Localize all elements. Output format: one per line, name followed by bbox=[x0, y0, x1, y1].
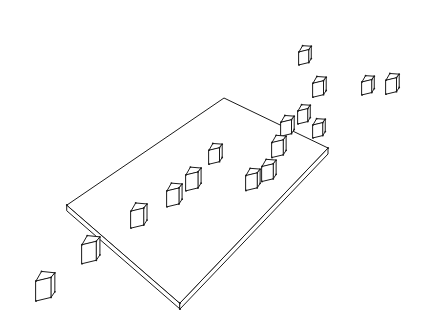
cube-front-face bbox=[246, 173, 257, 191]
cube-front-face bbox=[82, 241, 96, 263]
cube-far-3 bbox=[361, 75, 375, 96]
cube-front-face bbox=[262, 164, 273, 182]
sketch-canvas bbox=[0, 0, 436, 330]
cube-front-face bbox=[362, 80, 372, 95]
cube-front-face bbox=[386, 78, 397, 95]
cube-front-face bbox=[281, 120, 292, 137]
cube-far-1 bbox=[298, 45, 312, 66]
sketch-drawing bbox=[0, 0, 436, 330]
cube-edge-3 bbox=[312, 118, 326, 139]
cube-front-face bbox=[272, 140, 283, 158]
cube-front-face bbox=[167, 188, 179, 207]
cube-front-face bbox=[299, 50, 309, 65]
cube-front-face bbox=[209, 148, 220, 165]
cube-side-face bbox=[51, 273, 55, 298]
cube-front-face bbox=[131, 208, 144, 228]
cube-far-4 bbox=[385, 73, 400, 96]
cube-front-face bbox=[36, 277, 51, 301]
cube-out-1 bbox=[81, 235, 101, 265]
cube-front-face bbox=[313, 81, 324, 98]
cube-edge-1 bbox=[297, 104, 311, 125]
cube-front-face bbox=[313, 123, 323, 138]
cube-front-face bbox=[186, 172, 198, 191]
cube-front-face bbox=[298, 109, 308, 124]
cube-side-face bbox=[96, 237, 100, 260]
cube-far-2 bbox=[312, 76, 327, 99]
cube-out-2 bbox=[35, 271, 56, 302]
